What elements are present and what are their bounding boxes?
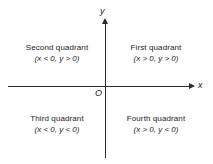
quadrant-label-fourth: Fourth quadrant (x > 0, y < 0) [110,114,202,135]
quadrant-diagram: x y O Second quadrant (x < 0, y > 0) Fir… [0,0,213,164]
y-axis-line [105,23,106,158]
quadrant-first-title: First quadrant [110,43,202,53]
quadrant-third-condition: (x < 0, y < 0) [11,125,103,135]
quadrant-label-first: First quadrant (x > 0, y > 0) [110,43,202,64]
y-axis-arrow-icon [102,18,108,24]
quadrant-second-title: Second quadrant [11,43,103,53]
x-axis-label: x [198,81,203,90]
quadrant-second-condition: (x < 0, y > 0) [11,54,103,64]
quadrant-third-title: Third quadrant [11,114,103,124]
quadrant-first-condition: (x > 0, y > 0) [110,54,202,64]
quadrant-fourth-title: Fourth quadrant [110,114,202,124]
quadrant-fourth-condition: (x > 0, y < 0) [110,125,202,135]
y-axis-label: y [100,7,105,16]
x-axis-arrow-icon [189,83,195,89]
quadrant-label-third: Third quadrant (x < 0, y < 0) [11,114,103,135]
quadrant-label-second: Second quadrant (x < 0, y > 0) [11,43,103,64]
x-axis-line [8,86,193,87]
origin-label: O [95,89,102,98]
